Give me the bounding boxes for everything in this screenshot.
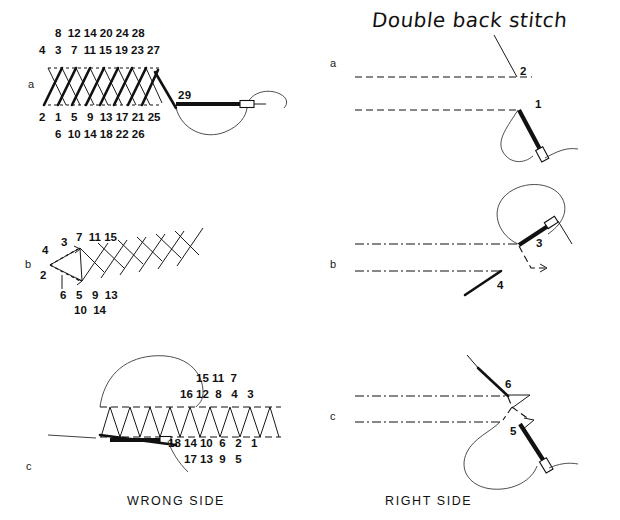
panel-letter-a-left: a xyxy=(28,78,34,90)
panel-b-numbers-top: 7 11 15 xyxy=(76,232,117,244)
panel-b-lattice xyxy=(50,228,203,289)
panel-a-needle-label: 29 xyxy=(178,90,191,102)
panel-letter-b-left: b xyxy=(25,258,31,270)
panel-letter-a-right: a xyxy=(330,57,336,69)
panel-a-lattice xyxy=(44,68,287,135)
panel-c-numbers-bottom-upper: 18 14 10 6 2 1 xyxy=(168,438,258,450)
panel-c-right-label-6: 6 xyxy=(505,379,512,391)
panel-b-numbers-bottom-upper: 6 5 9 13 xyxy=(60,290,118,302)
panel-c-numbers-top-upper: 15 11 7 xyxy=(196,373,237,385)
panel-b-number-3: 3 xyxy=(61,237,68,249)
panel-b-number-2: 2 xyxy=(40,270,47,282)
panel-a-right-label-2: 2 xyxy=(520,66,527,78)
panel-a-numbers-top-lower: 4 3 7 11 15 19 23 27 xyxy=(39,45,160,57)
panel-b-number-4: 4 xyxy=(42,245,49,257)
panel-a-numbers-bottom-lower: 6 10 14 18 22 26 xyxy=(55,129,145,141)
caption-right-side: RIGHT SIDE xyxy=(385,494,472,508)
caption-wrong-side: WRONG SIDE xyxy=(127,494,225,508)
panel-c-numbers-top-lower: 16 12 8 4 3 xyxy=(180,389,254,401)
panel-a-numbers-bottom-upper: 2 1 5 9 13 17 21 25 xyxy=(39,112,160,124)
diagram-sheet: Double back stitch .thin { stroke:#1a1a1… xyxy=(0,0,620,520)
panel-letter-c-left: c xyxy=(26,460,32,472)
panel-a-numbers-top-upper: 8 12 14 20 24 28 xyxy=(55,28,145,40)
stitch-artwork: .thin { stroke:#1a1a1a; stroke-width:1; … xyxy=(0,0,620,520)
panel-a-right xyxy=(355,35,578,162)
panel-letter-c-right: c xyxy=(330,410,336,422)
panel-c-zigzag xyxy=(48,356,281,472)
panel-b-right-label-3: 3 xyxy=(536,238,543,250)
panel-letter-b-right: b xyxy=(330,258,336,270)
panel-b-right-label-4: 4 xyxy=(497,280,504,292)
panel-c-right xyxy=(355,355,578,489)
panel-c-numbers-bottom-lower: 17 13 9 5 xyxy=(184,454,242,466)
panel-b-numbers-bottom-lower: 10 14 xyxy=(74,305,106,317)
panel-c-right-label-5: 5 xyxy=(510,426,517,438)
panel-a-right-label-1: 1 xyxy=(535,99,542,111)
